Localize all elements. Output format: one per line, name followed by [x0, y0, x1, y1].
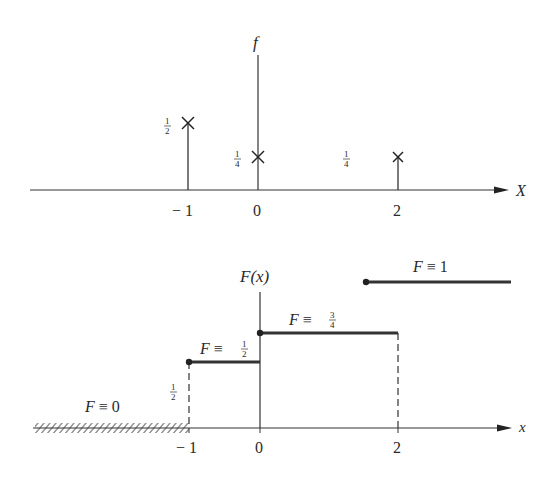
top-y-axis-label: f	[253, 33, 260, 52]
svg-text:2: 2	[171, 392, 176, 402]
bottom-tick-0: 0	[255, 439, 263, 456]
bottom-tick-2: 2	[393, 439, 401, 456]
svg-text:F ≡ 1: F ≡ 1	[412, 258, 448, 275]
svg-text:1: 1	[235, 149, 240, 159]
top-x-axis-label: X	[515, 182, 527, 199]
svg-text:4: 4	[344, 159, 349, 169]
label-F-equals-0: F ≡ 0	[84, 398, 120, 415]
svg-text:2: 2	[165, 126, 170, 136]
svg-text:1: 1	[242, 339, 247, 349]
svg-text:4: 4	[235, 159, 240, 169]
svg-text:F ≡ 0: F ≡ 0	[84, 398, 120, 415]
top-x-axis-arrow-icon	[494, 187, 509, 194]
bottom-tick-minus1: − 1	[176, 439, 197, 456]
bottom-x-axis-label: x	[518, 419, 526, 435]
closed-dot-icon	[363, 279, 369, 285]
svg-text:F ≡: F ≡	[199, 340, 223, 357]
top-tick-0: 0	[253, 202, 261, 219]
bottom-x-axis-arrow-icon	[497, 425, 512, 432]
closed-dot-icon	[186, 359, 192, 365]
label-F-equals-half: F ≡ 1 2	[199, 339, 248, 359]
jump-size-label: 1 2	[170, 382, 177, 402]
svg-text:2: 2	[242, 349, 247, 359]
bottom-plot: F(x) x − 1 0 2 F ≡ 0 F ≡ 1 2 F ≡ 3 4 F ≡…	[33, 258, 526, 456]
svg-text:1: 1	[344, 149, 349, 159]
top-tick-2: 2	[393, 202, 401, 219]
prob-label-0: 1 4	[234, 149, 241, 169]
top-plot: f X − 1 0 2 1 2 1 4 1 4	[30, 33, 527, 219]
svg-text:4: 4	[330, 320, 335, 330]
label-F-equals-three-quarters: F ≡ 3 4	[288, 310, 336, 330]
svg-text:3: 3	[330, 310, 335, 320]
prob-label-2: 1 4	[343, 149, 350, 169]
closed-dot-icon	[257, 330, 263, 336]
svg-text:1: 1	[171, 382, 176, 392]
label-F-equals-1: F ≡ 1	[412, 258, 448, 275]
bottom-y-axis-label: F(x)	[239, 267, 270, 286]
diagram-canvas: f X − 1 0 2 1 2 1 4 1 4	[0, 0, 559, 487]
prob-label-minus1: 1 2	[164, 116, 171, 136]
top-tick-minus1: − 1	[172, 202, 193, 219]
svg-text:F ≡: F ≡	[288, 311, 312, 328]
svg-text:1: 1	[165, 116, 170, 126]
